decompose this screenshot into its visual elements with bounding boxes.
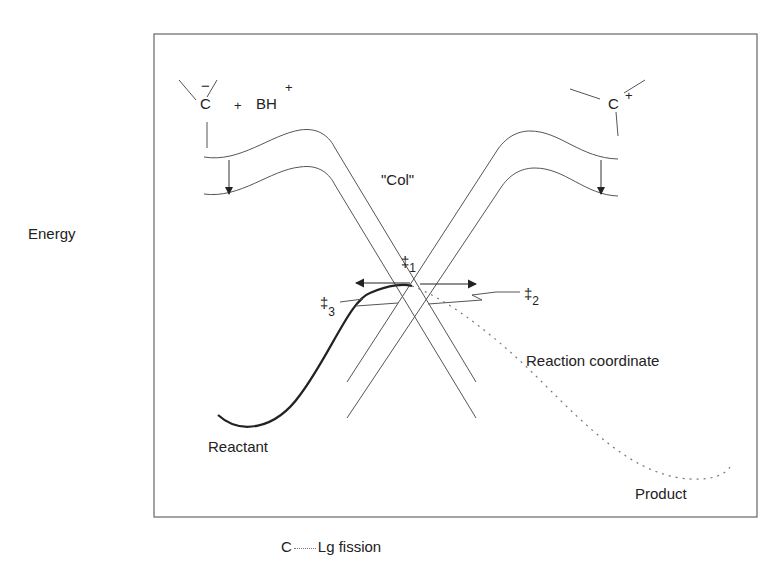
x-axis-label: CLg fission bbox=[281, 538, 381, 555]
energy-axis-label: Energy bbox=[28, 225, 76, 242]
product-path bbox=[412, 286, 730, 479]
left-diabatic-band bbox=[204, 129, 476, 418]
ts3-label: ‡3 bbox=[320, 294, 335, 311]
carbanion-atom: C bbox=[200, 95, 211, 112]
base-bh: BH bbox=[256, 95, 277, 112]
collision-label: "Col" bbox=[381, 171, 414, 188]
ts2-zigzag-leader bbox=[428, 292, 520, 304]
ts2-label: ‡2 bbox=[524, 285, 539, 302]
product-label: Product bbox=[635, 485, 687, 502]
dotted-bond bbox=[294, 548, 316, 549]
base-bh-charge: + bbox=[285, 80, 293, 95]
carbocation-charge: + bbox=[625, 88, 633, 103]
left-carbanion-bonds bbox=[179, 80, 217, 148]
reaction-coordinate-label: Reaction coordinate bbox=[526, 352, 659, 369]
carbanion-charge: − bbox=[201, 77, 210, 94]
reactant-path bbox=[218, 285, 412, 427]
right-carbocation: C bbox=[608, 95, 619, 112]
reactant-label: Reactant bbox=[208, 438, 268, 455]
plus-sign: + bbox=[234, 98, 242, 113]
ts3-zigzag-leader bbox=[340, 299, 398, 306]
left-carbanion: − C bbox=[200, 95, 211, 112]
ts1-label: ‡1 bbox=[401, 253, 416, 270]
